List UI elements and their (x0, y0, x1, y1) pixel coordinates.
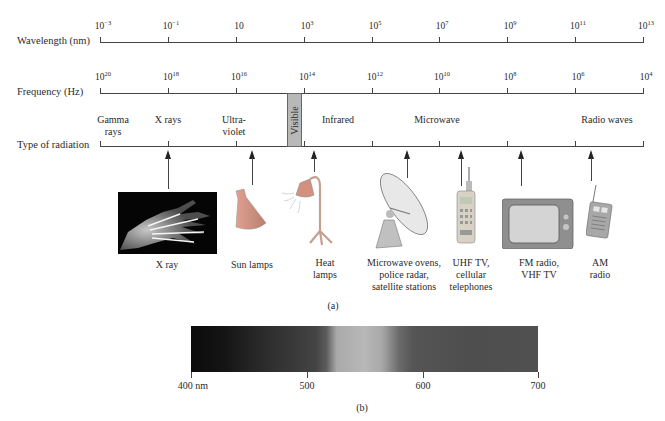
arrow-line (521, 158, 522, 186)
axis-tick (575, 37, 576, 43)
axis-tick (507, 141, 508, 147)
region-radio-waves: Radio waves (581, 114, 632, 126)
wavelength-axis-label: Wavelength (nm) (17, 35, 90, 46)
tick-label: 103 (301, 21, 314, 31)
spectrum-tick (423, 372, 424, 378)
axis-tick (439, 88, 440, 94)
spectrum-tick (307, 372, 308, 378)
caption-x-ray: X ray (156, 259, 179, 271)
axis-tick (168, 37, 169, 43)
axis-tick (100, 88, 101, 94)
caption-fm-radio: FM radio,VHF TV (519, 257, 559, 281)
region-gamma-rays: Gammarays (97, 114, 129, 138)
axis-tick (575, 88, 576, 94)
spectrum-tick-label: 500 (300, 380, 315, 392)
caption-uhf-tv: UHF TV,cellulartelephones (450, 257, 493, 293)
axis-tick (372, 37, 373, 43)
axis-tick (100, 37, 101, 43)
caption-microwave: Microwave ovens,police radar,satellite s… (367, 257, 441, 293)
axis-tick (168, 141, 169, 147)
arrow-line (591, 158, 592, 181)
axis-tick (643, 37, 644, 43)
tick-label: 1016 (231, 72, 247, 82)
region-ultraviolet: Ultra-violet (222, 114, 246, 138)
tick-label: 106 (572, 72, 585, 82)
spectrum-tick-label: 400 nm (178, 380, 208, 392)
tick-label: 1013 (638, 21, 654, 31)
axis-tick (372, 88, 373, 94)
tick-label: 108 (504, 72, 517, 82)
caption-sun-lamps: Sun lamps (231, 259, 273, 271)
axis-tick (643, 141, 644, 147)
tick-label: 10−3 (95, 21, 111, 31)
visible-spectrum-bar (191, 326, 538, 372)
tick-label: 1010 (434, 72, 450, 82)
spectrum-tick-label: 600 (416, 380, 431, 392)
television-icon (502, 197, 575, 249)
axis-tick (236, 37, 237, 43)
axis-tick (439, 141, 440, 147)
x-ray-hand-image (118, 192, 217, 254)
cellular-phone-icon (455, 167, 477, 245)
part-b-caption: (b) (356, 402, 368, 414)
spectrum-tick (191, 372, 192, 378)
region-microwave: Microwave (414, 114, 460, 126)
spectrum-tick-label: 700 (531, 380, 546, 392)
radiation-axis-label: Type of radiation (17, 139, 89, 150)
frequency-axis-label: Frequency (Hz) (17, 86, 83, 97)
spectrum-tick (538, 372, 539, 378)
tick-label: 1020 (95, 72, 111, 82)
axis-tick (100, 141, 101, 147)
axis-tick (575, 141, 576, 147)
axis-tick (304, 141, 305, 147)
axis-tick (507, 88, 508, 94)
arrow-line (314, 158, 315, 172)
axis-tick (643, 88, 644, 94)
region-x-rays: X rays (155, 114, 181, 126)
tick-label: 107 (436, 21, 449, 31)
tick-label: 1011 (570, 21, 586, 31)
caption-heat-lamps: Heatlamps (313, 257, 337, 281)
axis-tick (439, 37, 440, 43)
caption-am-radio: AMradio (590, 257, 611, 281)
tick-label: 1018 (163, 72, 179, 82)
tick-label: 109 (504, 21, 517, 31)
sun-lamp-icon (232, 187, 270, 233)
axis-tick (168, 88, 169, 94)
axis-tick (236, 88, 237, 94)
part-a-caption: (a) (327, 300, 338, 312)
region-infrared: Infrared (322, 114, 354, 126)
tick-label: 105 (369, 21, 382, 31)
visible-label: Visible (289, 106, 300, 134)
axis-tick (236, 141, 237, 147)
axis-tick (304, 37, 305, 43)
axis-tick (304, 88, 305, 94)
arrow-line (252, 158, 253, 185)
am-radio-icon (586, 183, 614, 239)
satellite-dish-icon (368, 168, 433, 250)
tick-label: 10−1 (163, 21, 179, 31)
tick-label: 10 (234, 21, 244, 31)
arrow-line (168, 158, 169, 189)
tick-label: 1012 (367, 72, 383, 82)
axis-tick (372, 141, 373, 147)
tick-label: 1014 (299, 72, 315, 82)
heat-lamp-icon (280, 175, 342, 247)
tick-label: 104 (640, 72, 653, 82)
axis-tick (507, 37, 508, 43)
